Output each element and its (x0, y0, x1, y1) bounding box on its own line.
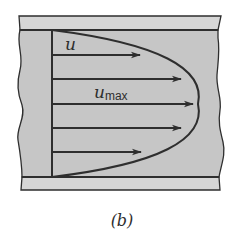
bottom-wall (21, 177, 220, 190)
top-wall (19, 16, 221, 30)
velocity-label: u (65, 34, 76, 54)
velocity-profile-diagram: u umax (b) (0, 0, 244, 231)
max-velocity-symbol: u (94, 82, 105, 102)
max-velocity-subscript: max (105, 89, 128, 103)
figure-caption: (b) (111, 211, 134, 230)
